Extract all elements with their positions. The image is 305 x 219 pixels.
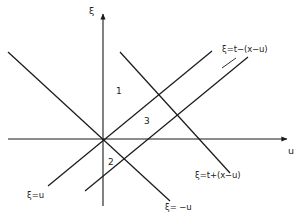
line-xi-equals-u	[48, 51, 212, 186]
leader-upper-right	[222, 58, 236, 68]
equation-label-lower-left: ξ=u	[27, 191, 44, 200]
equation-label-lower-right: ξ=t+(x−u)	[195, 171, 241, 180]
u-axis-label: u	[288, 146, 294, 156]
region-label-1: 1	[116, 87, 122, 96]
coordinate-diagram: ξ u 1 2 3 ξ=t−(x−u) ξ=t+(x−u) ξ=u ξ= −u	[0, 0, 305, 219]
region-label-3: 3	[144, 117, 150, 126]
equation-label-upper-right: ξ=t−(x−u)	[222, 45, 268, 54]
region-label-2: 2	[108, 158, 114, 167]
xi-axis-label: ξ	[89, 6, 94, 16]
diagram-canvas	[0, 0, 305, 219]
line-xi-equals-minus-u	[8, 52, 170, 201]
equation-label-bottom-center: ξ= −u	[165, 203, 192, 212]
